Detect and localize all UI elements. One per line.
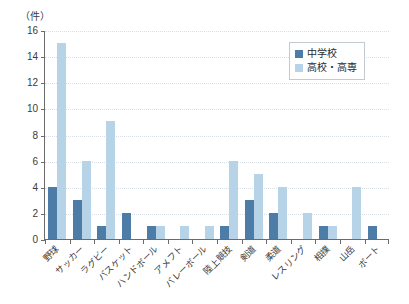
- bar-group: [94, 31, 119, 239]
- legend-swatch-icon: [295, 64, 303, 72]
- x-label-slot: サッカー: [69, 242, 94, 304]
- y-tick-label: 12: [27, 76, 38, 90]
- bar-group: [192, 31, 217, 239]
- x-axis-label-text: 野球: [42, 244, 62, 264]
- x-label-slot: 山岳: [340, 242, 365, 304]
- bar-group: [45, 31, 70, 239]
- x-label-slot: レスリング: [290, 242, 315, 304]
- bar-group: [119, 31, 144, 239]
- legend-label: 中学校: [307, 48, 337, 60]
- bar: [278, 187, 287, 239]
- bar: [48, 187, 57, 239]
- bar-chart: （件） 0246810121416 野球サッカーラグビーバスケットハンドボールア…: [0, 0, 409, 304]
- x-axis-label-text: 柔道: [263, 244, 283, 264]
- bar-group: [242, 31, 267, 239]
- bar: [269, 213, 278, 239]
- bar-group: [365, 31, 390, 239]
- y-tick-label: 10: [27, 102, 38, 116]
- bar: [82, 161, 91, 239]
- x-axis-label-text: 山岳: [337, 244, 357, 264]
- legend-swatch-icon: [295, 50, 303, 58]
- legend-item-0[interactable]: 中学校: [295, 47, 357, 61]
- x-label-slot: ハンドボール: [143, 242, 168, 304]
- x-axis-label-text: 剣道: [239, 244, 259, 264]
- x-axis-labels: 野球サッカーラグビーバスケットハンドボールアメフトバレーボール陸上競技剣道柔道レ…: [44, 242, 389, 304]
- bar-group: [266, 31, 291, 239]
- y-axis-unit-label: （件）: [20, 8, 50, 23]
- bar-group: [143, 31, 168, 239]
- y-tick-label: 6: [32, 155, 38, 169]
- y-tick-label: 14: [27, 50, 38, 64]
- y-tick-label: 2: [32, 207, 38, 221]
- bar: [73, 200, 82, 239]
- legend-item-1[interactable]: 高校・高専: [295, 61, 357, 75]
- y-tick-label: 4: [32, 181, 38, 195]
- bar-group: [70, 31, 95, 239]
- y-tick-label: 16: [27, 24, 38, 38]
- bar: [57, 43, 66, 239]
- x-axis-label-text: 相撲: [313, 244, 333, 264]
- bar: [352, 187, 361, 239]
- x-label-slot: 剣道: [241, 242, 266, 304]
- legend-label: 高校・高専: [307, 62, 357, 74]
- y-tick-label: 0: [32, 233, 38, 247]
- x-label-slot: ボート: [364, 242, 389, 304]
- x-label-slot: 相撲: [315, 242, 340, 304]
- y-tick-label: 8: [32, 129, 38, 143]
- x-label-slot: 陸上競技: [216, 242, 241, 304]
- legend: 中学校 高校・高専: [289, 42, 365, 80]
